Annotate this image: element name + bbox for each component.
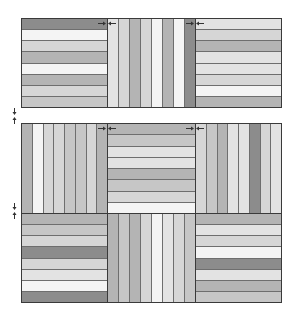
fabric-strip bbox=[108, 157, 195, 168]
fabric-strip bbox=[22, 280, 107, 291]
quilt-block-r1c3 bbox=[195, 18, 282, 108]
fabric-strip bbox=[196, 224, 281, 235]
quilt-block-r2c1 bbox=[21, 123, 108, 214]
quilt-block-r1c1 bbox=[21, 18, 108, 108]
fabric-strip bbox=[118, 19, 129, 107]
fabric-strip bbox=[43, 124, 54, 213]
fabric-strip bbox=[108, 146, 195, 157]
fabric-strip bbox=[196, 96, 281, 107]
fabric-strip bbox=[108, 214, 118, 302]
fabric-strip bbox=[64, 124, 75, 213]
quilt-block-r2c2 bbox=[107, 123, 196, 214]
fabric-strip bbox=[129, 214, 140, 302]
fabric-strip bbox=[196, 269, 281, 280]
fabric-strip bbox=[75, 124, 86, 213]
fabric-strip bbox=[227, 124, 238, 213]
fabric-strip bbox=[196, 51, 281, 62]
fabric-strip bbox=[32, 124, 43, 213]
fabric-strip bbox=[140, 214, 151, 302]
quilt-block-r1c2 bbox=[107, 18, 196, 108]
seam-arrow-icon bbox=[12, 108, 17, 124]
fabric-strip bbox=[184, 214, 195, 302]
fabric-strip bbox=[22, 124, 32, 213]
fabric-strip bbox=[196, 246, 281, 257]
fabric-strip bbox=[196, 40, 281, 51]
quilt-block-r2c3 bbox=[195, 123, 282, 214]
quilt-block-r3c2 bbox=[107, 213, 196, 303]
fabric-strip bbox=[22, 214, 107, 224]
fabric-strip bbox=[96, 124, 107, 213]
fabric-strip bbox=[270, 124, 281, 213]
fabric-strip bbox=[196, 74, 281, 85]
fabric-strip bbox=[118, 214, 129, 302]
fabric-strip bbox=[22, 269, 107, 280]
fabric-strip bbox=[22, 40, 107, 51]
fabric-strip bbox=[196, 214, 281, 224]
fabric-strip bbox=[140, 19, 151, 107]
fabric-strip bbox=[22, 63, 107, 74]
seam-arrow-icon bbox=[98, 11, 116, 16]
fabric-strip bbox=[151, 214, 162, 302]
fabric-strip bbox=[86, 124, 97, 213]
fabric-strip bbox=[22, 224, 107, 235]
fabric-strip bbox=[238, 124, 249, 213]
fabric-strip bbox=[22, 85, 107, 96]
fabric-strip bbox=[22, 235, 107, 246]
fabric-strip bbox=[196, 235, 281, 246]
fabric-strip bbox=[22, 29, 107, 40]
fabric-strip bbox=[173, 214, 184, 302]
fabric-strip bbox=[53, 124, 64, 213]
fabric-strip bbox=[22, 19, 107, 29]
fabric-strip bbox=[22, 246, 107, 257]
fabric-strip bbox=[151, 19, 162, 107]
fabric-strip bbox=[196, 280, 281, 291]
fabric-strip bbox=[196, 124, 206, 213]
fabric-strip bbox=[108, 168, 195, 179]
seam-arrow-icon bbox=[12, 203, 17, 219]
fabric-strip bbox=[108, 202, 195, 213]
fabric-strip bbox=[196, 85, 281, 96]
fabric-strip bbox=[162, 19, 173, 107]
fabric-strip bbox=[196, 63, 281, 74]
fabric-strip bbox=[249, 124, 260, 213]
fabric-strip bbox=[108, 134, 195, 145]
fabric-strip bbox=[206, 124, 217, 213]
seam-arrow-icon bbox=[186, 116, 204, 121]
fabric-strip bbox=[22, 96, 107, 107]
fabric-strip bbox=[173, 19, 184, 107]
fabric-strip bbox=[196, 19, 281, 29]
fabric-strip bbox=[260, 124, 271, 213]
fabric-strip bbox=[217, 124, 228, 213]
fabric-strip bbox=[196, 258, 281, 269]
fabric-strip bbox=[22, 291, 107, 302]
fabric-strip bbox=[129, 19, 140, 107]
fabric-strip bbox=[184, 19, 195, 107]
fabric-strip bbox=[108, 19, 118, 107]
seam-arrow-icon bbox=[98, 116, 116, 121]
fabric-strip bbox=[108, 179, 195, 190]
quilt-block-r3c1 bbox=[21, 213, 108, 303]
fabric-strip bbox=[196, 29, 281, 40]
fabric-strip bbox=[108, 124, 195, 134]
fabric-strip bbox=[108, 191, 195, 202]
fabric-strip bbox=[22, 51, 107, 62]
quilt-block-r3c3 bbox=[195, 213, 282, 303]
fabric-strip bbox=[22, 258, 107, 269]
fabric-strip bbox=[162, 214, 173, 302]
fabric-strip bbox=[196, 291, 281, 302]
seam-arrow-icon bbox=[186, 11, 204, 16]
fabric-strip bbox=[22, 74, 107, 85]
